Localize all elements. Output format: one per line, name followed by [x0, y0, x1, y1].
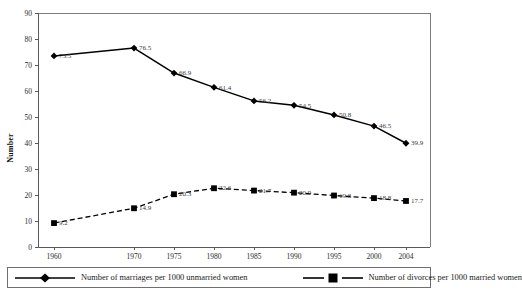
x-tick-label: 2004 [399, 252, 414, 261]
data-point-label: 73.5 [59, 52, 72, 60]
x-tick-label: 1995 [327, 252, 342, 261]
square-marker-icon [302, 272, 364, 284]
x-tick-label: 1980 [207, 252, 222, 261]
data-point-label: 54.5 [299, 102, 312, 110]
data-point-marker [171, 191, 177, 197]
legend-item-divorces: Number of divorces per 1000 married wome… [302, 272, 522, 284]
data-point-marker [403, 198, 409, 204]
y-tick-label: 50 [25, 113, 33, 122]
data-point-marker [403, 140, 410, 147]
data-point-label: 9.2 [59, 219, 68, 227]
series-layer [51, 45, 410, 226]
y-tick-label: 70 [25, 61, 33, 70]
legend-item-marriages: Number of marriages per 1000 unmarried w… [14, 272, 248, 284]
data-point-label: 14.9 [139, 204, 152, 212]
data-point-marker [331, 193, 337, 199]
data-point-marker [371, 123, 378, 130]
series-line-divorces [54, 188, 406, 223]
x-tick-label: 2000 [367, 252, 382, 261]
x-tick-label: 1960 [47, 252, 62, 261]
data-point-marker [211, 84, 218, 91]
data-point-label: 56.2 [259, 97, 272, 105]
data-point-marker [291, 190, 297, 196]
data-point-label: 39.9 [411, 139, 424, 147]
data-point-label: 22.6 [219, 184, 232, 192]
y-tick-label: 40 [25, 139, 33, 148]
y-tick-label: 0 [28, 243, 32, 252]
data-point-label: 50.8 [339, 111, 352, 119]
x-tick-label: 1990 [287, 252, 302, 261]
chart-legend: Number of marriages per 1000 unmarried w… [7, 267, 431, 288]
legend-label-marriages: Number of marriages per 1000 unmarried w… [81, 273, 248, 282]
data-point-label: 20.9 [299, 189, 312, 197]
y-axis-title: Number [6, 133, 15, 163]
data-point-marker [131, 45, 138, 52]
data-point-marker [251, 97, 258, 104]
data-point-label: 76.5 [139, 44, 152, 52]
data-point-marker [131, 205, 137, 211]
y-tick-label: 90 [25, 9, 33, 18]
data-point-label: 18.8 [379, 194, 392, 202]
data-point-marker [291, 102, 298, 109]
x-tick-label: 1985 [247, 252, 262, 261]
axes-layer: 0102030405060708090196019701975198019851… [25, 9, 431, 261]
data-point-label: 66.9 [179, 69, 192, 77]
data-point-label: 61.4 [219, 84, 232, 92]
diamond-marker-icon [14, 272, 76, 284]
data-point-marker [51, 53, 58, 60]
y-tick-label: 60 [25, 87, 33, 96]
data-labels-layer: 73.576.566.961.456.254.550.846.539.99.21… [59, 44, 424, 227]
x-tick-label: 1975 [167, 252, 182, 261]
y-tick-label: 30 [25, 165, 33, 174]
legend-label-divorces: Number of divorces per 1000 married wome… [369, 273, 522, 282]
data-point-label: 46.5 [379, 122, 392, 130]
data-point-marker [331, 112, 338, 119]
data-point-label: 20.3 [179, 190, 192, 198]
x-tick-label: 1970 [127, 252, 142, 261]
y-tick-label: 80 [25, 35, 33, 44]
data-point-marker [371, 195, 377, 201]
data-point-marker [171, 70, 178, 77]
data-point-label: 19.8 [339, 192, 352, 200]
series-line-marriages [54, 48, 406, 143]
data-point-marker [251, 188, 257, 194]
data-point-marker [51, 220, 57, 226]
data-point-marker [211, 185, 217, 191]
y-tick-label: 10 [25, 217, 33, 226]
y-tick-label: 20 [25, 191, 33, 200]
data-point-label: 17.7 [411, 197, 424, 205]
data-point-label: 21.7 [259, 187, 272, 195]
